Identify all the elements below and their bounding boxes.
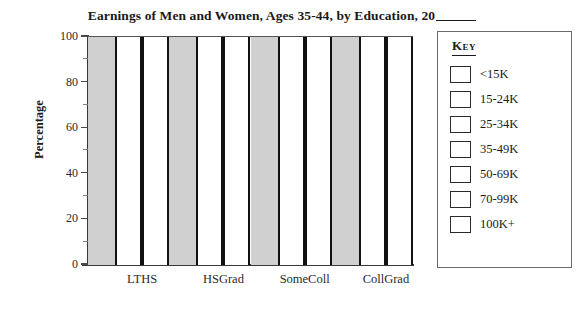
legend-item[interactable]: 25-34K [450,112,568,137]
bar-hsgrad-2[interactable] [223,37,250,265]
y-axis-tick-labels: 100806040200 [40,0,78,312]
legend-item[interactable]: 100K+ [450,212,568,237]
y-axis-tick-label: 80 [44,74,78,89]
bar-somecoll-1[interactable] [278,37,305,265]
legend-swatch-icon [450,116,471,133]
legend-item[interactable]: 35-49K [450,137,568,162]
y-axis-major-tick [81,263,88,264]
y-axis-minor-tick [83,58,88,59]
legend-panel: Key <15K15-24K25-34K35-49K50-69K70-99K10… [437,31,572,268]
bar-collgrad-2[interactable] [386,37,413,265]
bar-lths-1[interactable] [115,37,142,265]
legend-item[interactable]: 50-69K [450,162,568,187]
legend-item-label: 15-24K [480,92,518,107]
legend-swatch-icon [450,166,471,183]
legend-item-label: 100K+ [480,217,515,232]
x-axis-tick-label-collgrad: CollGrad [363,272,410,287]
group-separator-band [332,37,359,265]
y-axis-tick-label: 100 [44,29,78,44]
y-axis-minor-tick [83,195,88,196]
legend-items-list: <15K15-24K25-34K35-49K50-69K70-99K100K+ [450,62,568,237]
bar-collgrad-1[interactable] [359,37,386,265]
bar-hsgrad-1[interactable] [196,37,223,265]
y-axis-major-tick [81,218,88,219]
x-axis-tick-label-lths: LTHS [127,272,157,287]
y-axis-minor-tick [83,241,88,242]
legend-item[interactable]: <15K [450,62,568,87]
bar-lths-2[interactable] [142,37,169,265]
y-axis-major-tick [81,172,88,173]
legend-item[interactable]: 15-24K [450,87,568,112]
chart-title: Earnings of Men and Women, Ages 35-44, b… [72,8,492,24]
group-separator-band [88,37,115,265]
y-axis-tick-label: 20 [44,211,78,226]
x-axis-tick-label-somecoll: SomeColl [280,272,330,287]
group-separator-band [251,37,278,265]
plot-area [88,36,413,264]
y-axis-tick-label: 0 [44,257,78,272]
bar-somecoll-2[interactable] [305,37,332,265]
legend-item-label: <15K [480,67,509,82]
legend-title: Key [452,38,476,56]
y-axis-major-tick [81,35,88,36]
y-axis-tick-label: 40 [44,165,78,180]
legend-swatch-icon [450,66,471,83]
y-axis-minor-tick [83,104,88,105]
y-axis-major-tick [81,81,88,82]
legend-item-label: 25-34K [480,117,518,132]
legend-swatch-icon [450,191,471,208]
legend-swatch-icon [450,216,471,233]
y-axis-tick-label: 60 [44,120,78,135]
y-axis-minor-tick [83,149,88,150]
y-axis-major-tick [81,127,88,128]
legend-item-label: 50-69K [480,167,518,182]
legend-item-label: 35-49K [480,142,518,157]
chart-title-text: Earnings of Men and Women, Ages 35-44, b… [88,8,435,23]
legend-item[interactable]: 70-99K [450,187,568,212]
chart-title-year-blank [436,9,476,21]
x-axis-tick-label-hsgrad: HSGrad [203,272,244,287]
group-separator-band [169,37,196,265]
legend-swatch-icon [450,91,471,108]
legend-item-label: 70-99K [480,192,518,207]
legend-swatch-icon [450,141,471,158]
